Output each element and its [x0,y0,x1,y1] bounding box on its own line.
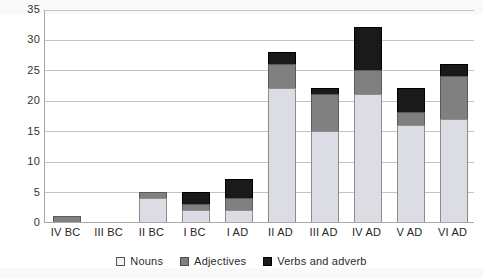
bar-stack[interactable] [397,88,425,222]
bar-stack[interactable] [225,179,253,222]
x-tick-label: III AD [302,226,345,239]
x-tick-label: I AD [216,226,259,239]
legend-item[interactable]: Verbs and adverb [263,255,366,267]
legend-item[interactable]: Nouns [116,255,163,267]
chart-legend: NounsAdjectivesVerbs and adverb [0,252,483,270]
bar-segment-verbs[interactable] [225,179,253,197]
bar-segment-adjectives[interactable] [397,112,425,124]
bar-segment-nouns[interactable] [268,88,296,222]
y-tick-label-25: 25 [2,65,40,76]
bar-segment-verbs[interactable] [440,64,468,76]
stacked-bar-chart: 05101520253035 IV BCIII BCII BCI BCI ADI… [0,0,483,278]
bar-group[interactable] [432,10,475,222]
nouns-swatch-icon [116,257,125,266]
verbs-swatch-icon [263,257,272,266]
bar-stack[interactable] [268,52,296,222]
bar-segment-adjectives[interactable] [440,76,468,119]
bar-segment-verbs[interactable] [354,27,382,70]
y-tick-label-20: 20 [2,95,40,106]
legend-label: Adjectives [194,255,246,267]
bar-segment-nouns[interactable] [440,119,468,222]
plot-area [44,10,474,223]
legend-label: Nouns [130,255,163,267]
bar-group[interactable] [88,10,131,222]
bar-segment-nouns[interactable] [225,210,253,222]
bar-segment-nouns[interactable] [354,94,382,222]
bar-segment-verbs[interactable] [397,88,425,112]
y-tick-label-30: 30 [2,34,40,45]
legend-label: Verbs and adverb [277,255,366,267]
bar-segment-adjectives[interactable] [354,70,382,94]
x-axis: IV BCIII BCII BCI BCI ADII ADIII ADIV AD… [44,226,474,242]
bar-group[interactable] [303,10,346,222]
bar-segment-nouns[interactable] [311,131,339,222]
y-tick-label-0: 0 [2,217,40,228]
x-tick-label: V AD [388,226,431,239]
x-tick-label: I BC [173,226,216,239]
y-tick-label-15: 15 [2,126,40,137]
x-tick-label: VI AD [431,226,474,239]
bar-stack[interactable] [311,88,339,222]
bar-group[interactable] [389,10,432,222]
y-tick-label-5: 5 [2,187,40,198]
adjectives-swatch-icon [180,257,189,266]
bar-group[interactable] [45,10,88,222]
bar-group[interactable] [346,10,389,222]
y-tick-label-35: 35 [2,4,40,15]
bar-stack[interactable] [139,192,167,222]
bar-group[interactable] [217,10,260,222]
bar-segment-adjectives[interactable] [268,64,296,88]
bars-layer [45,10,474,222]
bar-stack[interactable] [53,216,81,222]
x-tick-label: III BC [87,226,130,239]
legend-item[interactable]: Adjectives [180,255,246,267]
bar-segment-nouns[interactable] [397,125,425,222]
bar-segment-adjectives[interactable] [311,94,339,131]
x-tick-label: II AD [259,226,302,239]
bar-segment-adjectives[interactable] [53,216,81,222]
x-tick-label: IV BC [44,226,87,239]
bar-segment-nouns[interactable] [182,210,210,222]
bar-group[interactable] [131,10,174,222]
bar-stack[interactable] [182,192,210,222]
bar-segment-nouns[interactable] [139,198,167,222]
bar-segment-adjectives[interactable] [225,198,253,210]
bar-group[interactable] [260,10,303,222]
bar-segment-verbs[interactable] [268,52,296,64]
y-tick-label-10: 10 [2,156,40,167]
bar-segment-verbs[interactable] [182,192,210,204]
y-axis: 05101520253035 [0,10,40,223]
x-tick-label: IV AD [345,226,388,239]
bar-stack[interactable] [440,64,468,222]
bar-group[interactable] [174,10,217,222]
bar-stack[interactable] [354,27,382,222]
x-tick-label: II BC [130,226,173,239]
